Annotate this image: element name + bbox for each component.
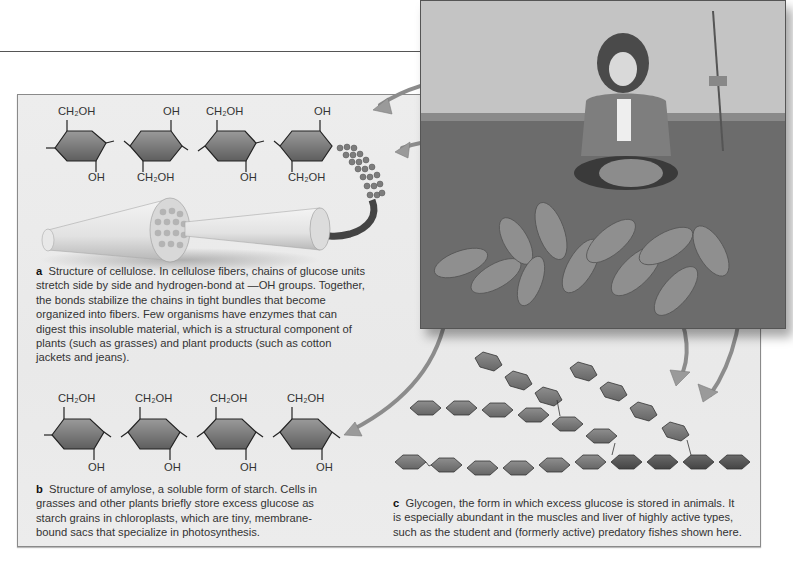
photo-student-with-fishes: [420, 0, 786, 329]
glycogen-branches: [395, 352, 750, 475]
panel-c-caption: c Glycogen, the form in which excess glu…: [393, 496, 743, 539]
panel-a-letter: a: [36, 265, 42, 277]
cellulose-chain: [46, 120, 332, 172]
label-oh: OH: [240, 170, 257, 184]
panel-c-text: Glycogen, the form in which excess gluco…: [393, 497, 742, 538]
label-ch2oh: CH₂OH: [206, 104, 243, 118]
label-ch2oh: CH₂OH: [135, 391, 172, 405]
panel-b-caption: b Structure of amylose, a soluble form o…: [36, 482, 326, 540]
panel-b-letter: b: [36, 483, 43, 495]
label-oh: OH: [240, 460, 257, 474]
label-ch2oh: CH₂OH: [58, 391, 95, 405]
panel-a-caption: a Structure of cellulose. In cellulose f…: [36, 264, 366, 365]
label-ch2oh: CH₂OH: [287, 391, 324, 405]
label-oh: OH: [163, 104, 180, 118]
label-ch2oh: CH₂OH: [210, 391, 247, 405]
label-oh: OH: [164, 460, 181, 474]
label-oh: OH: [314, 104, 331, 118]
cellulose-strand: [337, 144, 385, 198]
label-ch2oh: CH₂OH: [288, 170, 325, 184]
panel-b-text: Structure of amylose, a soluble form of …: [36, 483, 317, 538]
panel-a-text: Structure of cellulose. In cellulose fib…: [36, 265, 365, 363]
label-ch2oh: CH₂OH: [58, 104, 95, 118]
label-oh: OH: [88, 460, 105, 474]
amylose-chain: [44, 407, 340, 460]
label-oh: OH: [316, 460, 333, 474]
label-oh: OH: [88, 170, 105, 184]
panel-c-letter: c: [393, 497, 399, 509]
label-ch2oh: CH₂OH: [137, 170, 174, 184]
